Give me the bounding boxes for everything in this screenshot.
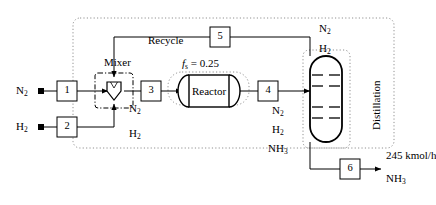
stream4-component-nh3: NH3 (268, 143, 288, 154)
product-flow-rate: 245 kmol/h (386, 150, 436, 161)
reactor-left-head (178, 75, 189, 107)
stream-number-5: 5 (210, 31, 230, 42)
overhead-component-n2: N2 (319, 23, 331, 34)
mixer-symbol (107, 82, 121, 100)
distillation-label: Distillation (371, 81, 382, 131)
stream-number-6: 6 (340, 163, 360, 174)
stream3-component-n2: N2 (129, 103, 141, 114)
stream-number-1: 1 (57, 85, 77, 96)
hydrogen-feed-label: H2 (16, 121, 28, 132)
reactor-right-head (229, 75, 240, 107)
stream3-component-h2: H2 (129, 128, 141, 139)
nitrogen-feed-marker (38, 88, 44, 94)
stream-number-4: 4 (258, 85, 278, 96)
product-label-nh3: NH3 (386, 173, 406, 184)
process-flow-diagram: 1 2 3 4 5 6 N2 H2 Mixer Recycle fs = 0.2… (0, 0, 436, 205)
parameter-value: = 0.25 (191, 57, 219, 69)
nitrogen-feed-label: N2 (16, 85, 28, 96)
reactor-conversion-parameter: fs = 0.25 (182, 58, 219, 69)
stream-number-2: 2 (57, 121, 77, 132)
hydrogen-feed-marker (38, 124, 44, 130)
stream4-component-h2: H2 (272, 124, 284, 135)
mixer-label: Mixer (104, 57, 131, 68)
parameter-subscript: s (185, 62, 188, 71)
recycle-label: Recycle (148, 35, 183, 46)
distillation-column-shell (310, 56, 342, 142)
overhead-component-h2: H2 (319, 43, 331, 54)
line-column-bottom-to-stream6 (310, 142, 340, 169)
stream-number-3: 3 (141, 85, 161, 96)
line-stream5-from-column-top (230, 37, 310, 56)
reactor-label: Reactor (192, 86, 226, 97)
stream4-component-n2: N2 (272, 105, 284, 116)
